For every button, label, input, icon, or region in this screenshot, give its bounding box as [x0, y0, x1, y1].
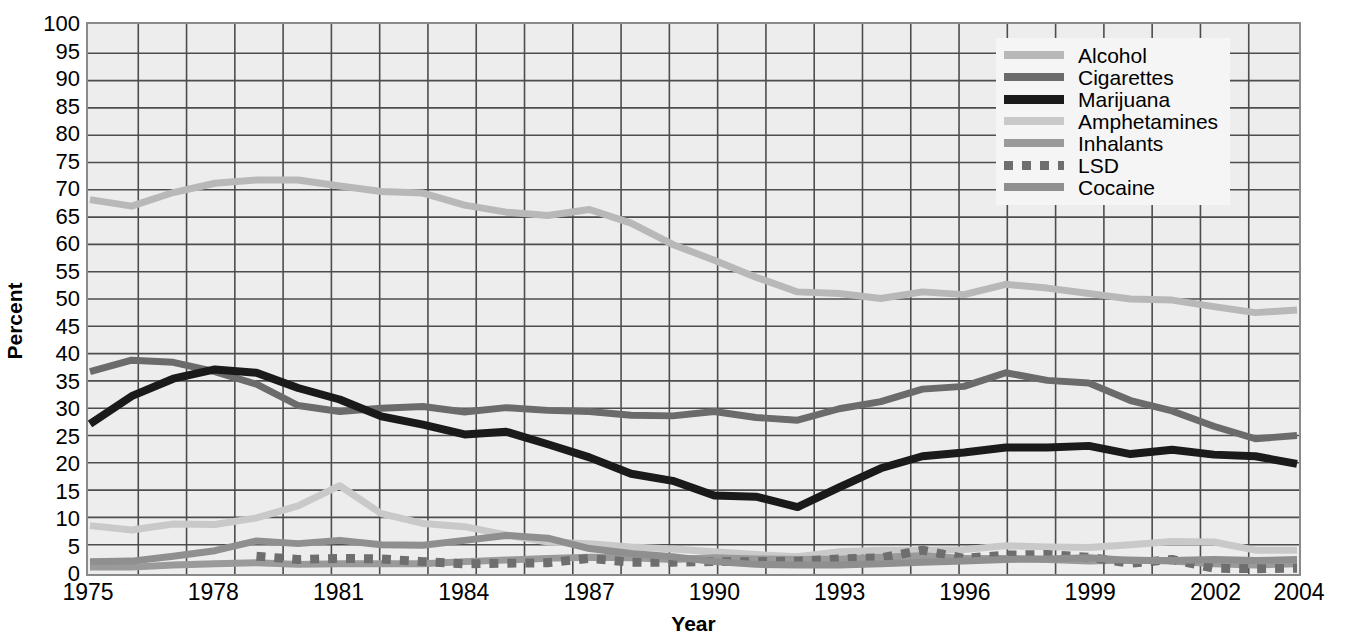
- y-axis-title: Percent: [0, 0, 30, 642]
- y-axis-tick-label: 100: [43, 13, 80, 35]
- series-line-amphetamines: [90, 486, 1297, 557]
- legend-item-inhalants[interactable]: Inhalants: [1004, 132, 1218, 154]
- y-axis-tick-labels: 1009590858075706560555045403530252015105…: [30, 0, 84, 584]
- legend-swatch-icon: [1004, 183, 1064, 191]
- y-axis-tick-label: 50: [56, 288, 80, 310]
- y-axis-tick-label: 30: [56, 398, 80, 420]
- y-axis-tick-label: 25: [56, 426, 80, 448]
- legend-swatch-icon: [1004, 95, 1064, 104]
- x-axis-tick-label: 1975: [62, 580, 113, 605]
- y-axis-tick-label: 80: [56, 123, 80, 145]
- chart-legend: AlcoholCigarettesMarijuanaAmphetaminesIn…: [996, 38, 1230, 205]
- legend-swatch-icon: [1004, 117, 1064, 125]
- legend-item-alcohol[interactable]: Alcohol: [1004, 44, 1218, 66]
- x-axis-tick-label: 1981: [313, 580, 364, 605]
- legend-swatch-icon: [1004, 51, 1064, 59]
- legend-label: Amphetamines: [1078, 111, 1218, 132]
- y-axis-tick-label: 10: [56, 508, 80, 530]
- legend-item-cigarettes[interactable]: Cigarettes: [1004, 66, 1218, 88]
- legend-label: Marijuana: [1078, 89, 1170, 110]
- y-axis-tick-label: 75: [56, 151, 80, 173]
- legend-swatch-icon: [1004, 73, 1064, 81]
- x-axis-tick-labels: 1975197819811984198719901993199619992002…: [86, 580, 1301, 614]
- line-chart: Percent 10095908580757065605550454035302…: [0, 0, 1346, 642]
- legend-label: Inhalants: [1078, 133, 1163, 154]
- y-axis-tick-label: 40: [56, 343, 80, 365]
- legend-label: Cocaine: [1078, 177, 1155, 198]
- y-axis-tick-label: 95: [56, 41, 80, 63]
- x-axis-tick-label: 1978: [188, 580, 239, 605]
- legend-label: LSD: [1078, 155, 1119, 176]
- x-axis-title: Year: [86, 612, 1301, 636]
- y-axis-tick-label: 65: [56, 206, 80, 228]
- y-axis-tick-label: 70: [56, 178, 80, 200]
- legend-swatch-icon: [1004, 139, 1064, 147]
- legend-item-amphetamines[interactable]: Amphetamines: [1004, 110, 1218, 132]
- y-axis-tick-label: 90: [56, 68, 80, 90]
- y-axis-tick-label: 35: [56, 371, 80, 393]
- y-axis-tick-label: 45: [56, 316, 80, 338]
- y-axis-tick-label: 5: [68, 536, 80, 558]
- y-axis-tick-label: 60: [56, 233, 80, 255]
- legend-item-marijuana[interactable]: Marijuana: [1004, 88, 1218, 110]
- y-axis-tick-label: 55: [56, 261, 80, 283]
- x-axis-tick-label: 1987: [564, 580, 615, 605]
- y-axis-tick-label: 15: [56, 481, 80, 503]
- x-axis-tick-label: 1999: [1065, 580, 1116, 605]
- x-axis-tick-label: 1984: [438, 580, 489, 605]
- x-axis-tick-label: 1990: [689, 580, 740, 605]
- x-axis-tick-label: 2004: [1273, 580, 1324, 605]
- y-axis-tick-label: 85: [56, 96, 80, 118]
- legend-item-lsd[interactable]: LSD: [1004, 154, 1218, 176]
- y-axis-tick-label: 20: [56, 453, 80, 475]
- x-axis-tick-label: 1993: [814, 580, 865, 605]
- legend-swatch-icon: [1004, 161, 1064, 170]
- legend-label: Alcohol: [1078, 45, 1147, 66]
- series-line-cigarettes: [90, 360, 1297, 439]
- x-axis-tick-label: 2002: [1190, 580, 1241, 605]
- x-axis-tick-label: 1996: [939, 580, 990, 605]
- legend-label: Cigarettes: [1078, 67, 1174, 88]
- legend-item-cocaine[interactable]: Cocaine: [1004, 176, 1218, 198]
